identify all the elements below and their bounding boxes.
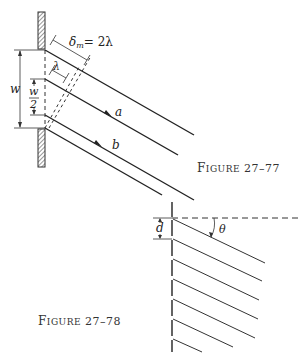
label-w: w [10,82,21,96]
label-ray-b: b [112,138,120,152]
label-w-half-den: 2 [29,98,37,111]
d-arrow-down-icon [158,235,162,239]
diffracted-ray [173,299,255,338]
w-arrow-up-icon [18,50,22,56]
figure-27-78 [153,202,302,352]
label-d: d [156,221,164,235]
w2-arrow-up-icon [32,79,36,84]
label-theta: θ [219,223,226,236]
caption-figure-27-77: FIGURE 27–77 [197,161,280,175]
caption-number: 27–77 [244,162,280,175]
diffracted-ray [173,339,202,352]
label-lambda: λ [52,60,60,73]
delta-tick-left [50,35,56,45]
label-ray-a: a [115,105,122,119]
caption-figure-27-78: FIGURE 27–78 [38,314,121,328]
label-delta: δm= 2λ [69,35,113,50]
caption-prefix-small: IGURE [47,317,81,327]
diffracted-ray [173,279,258,319]
caption-prefix-small: IGURE [206,164,240,174]
label-w-half-num: w [29,85,39,98]
diffracted-ray [173,259,259,300]
upper-slit-wall [38,12,45,49]
ray-b [45,128,162,195]
diffracted-ray [173,239,262,281]
ray-a2 [45,115,194,200]
lambda-tick-right [63,73,69,83]
caption-number: 27–78 [85,315,121,328]
lower-slit-wall [38,129,45,167]
w-arrow-down-icon [18,122,22,128]
caption-prefix-big: F [197,161,206,175]
diagram-canvas: δm= 2λ λ w w 2 a b d θ [0,0,302,362]
arrow-a-icon [104,110,112,117]
caption-prefix-big: F [38,314,47,328]
